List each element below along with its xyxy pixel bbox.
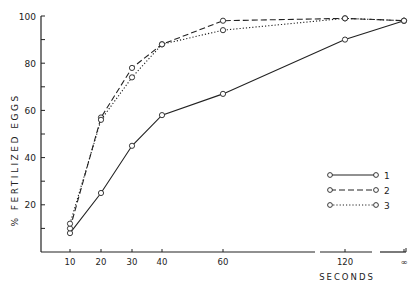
legend-marker	[328, 203, 333, 208]
legend-label: 1	[384, 171, 390, 181]
x-axis-label: SECONDS	[319, 272, 375, 282]
x-tick-label: 20	[96, 257, 107, 267]
legend-marker	[328, 188, 333, 193]
series-line-1	[70, 21, 404, 233]
y-tick-label: 20	[25, 200, 37, 210]
data-point-marker	[129, 143, 134, 148]
y-axis-label: % FERTILIZED EGGS	[10, 93, 20, 226]
x-tick-label: 30	[127, 257, 138, 267]
data-point-marker	[220, 91, 225, 96]
series-line-3	[70, 18, 404, 223]
data-point-marker	[220, 28, 225, 33]
series-line-2	[70, 18, 404, 228]
x-tick-label: 60	[218, 257, 229, 267]
plot-series	[67, 16, 406, 236]
data-point-marker	[159, 42, 164, 47]
legend-marker	[374, 173, 379, 178]
data-point-marker	[342, 37, 347, 42]
x-tick-label: 10	[65, 257, 76, 267]
chart-figure: 204060801001020304060120∞ 123 % FERTILIZ…	[0, 0, 416, 287]
legend-label: 2	[384, 186, 390, 196]
y-tick-label: 100	[19, 12, 36, 22]
data-point-marker	[129, 75, 134, 80]
data-point-marker	[342, 16, 347, 21]
data-point-marker	[220, 18, 225, 23]
x-tick-label: 40	[157, 257, 168, 267]
data-point-marker	[67, 221, 72, 226]
legend-marker	[374, 203, 379, 208]
data-point-marker	[98, 190, 103, 195]
legend-marker	[328, 173, 333, 178]
legend-marker	[374, 188, 379, 193]
x-tick-label: 120	[337, 257, 353, 267]
y-tick-label: 80	[25, 59, 37, 69]
x-tick-label: ∞	[400, 257, 407, 267]
y-tick-label: 60	[25, 106, 37, 116]
y-tick-label: 40	[25, 153, 37, 163]
legend-label: 3	[384, 201, 390, 211]
data-point-marker	[129, 65, 134, 70]
data-point-marker	[401, 18, 406, 23]
legend: 123	[328, 171, 390, 211]
axes: 204060801001020304060120∞	[19, 12, 408, 268]
data-point-marker	[159, 113, 164, 118]
data-point-marker	[98, 117, 103, 122]
